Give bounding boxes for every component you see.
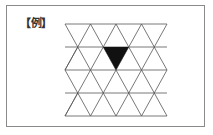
- highlighted-triangle: [103, 47, 129, 70]
- triangular-grid: [0, 0, 213, 135]
